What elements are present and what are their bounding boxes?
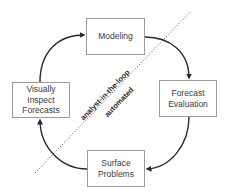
- node-forecast-evaluation: Forecast Evaluation: [159, 80, 217, 117]
- diagram-canvas: Modeling Forecast Evaluation Surface Pro…: [0, 0, 228, 195]
- node-modeling: Modeling: [86, 18, 145, 55]
- node-surface-problems: Surface Problems: [87, 150, 145, 187]
- arrow-modeling-to-evaluation: [145, 37, 189, 78]
- arrow-inspect-to-modeling: [40, 35, 84, 82]
- arrow-evaluation-to-surface: [147, 117, 189, 169]
- node-visually-inspect-forecasts: Visually Inspect Forecasts: [12, 82, 70, 118]
- arrow-surface-to-inspect: [40, 120, 87, 169]
